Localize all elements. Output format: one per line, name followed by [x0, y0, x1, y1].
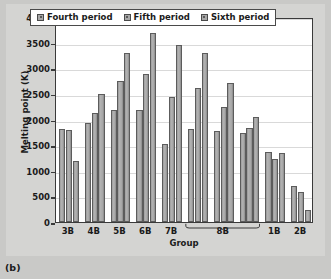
bar — [214, 131, 220, 222]
bar — [73, 161, 79, 222]
bar — [305, 210, 311, 222]
bar — [188, 129, 194, 222]
bar — [169, 97, 175, 222]
legend-swatch-icon — [124, 14, 131, 21]
x-axis-tick-label: 6B — [139, 226, 151, 236]
legend-entry: Fourth period — [37, 12, 113, 22]
y-axis-tick-mark — [51, 223, 55, 225]
bar — [221, 107, 227, 222]
gridline — [56, 70, 312, 71]
plot-inner — [56, 19, 312, 222]
x-axis-tick-label: 1B — [268, 226, 280, 236]
legend: Fourth periodFifth periodSixth period — [30, 9, 276, 26]
y-axis-tick-label: 2500 — [6, 90, 50, 100]
group-8b-brace-icon — [185, 223, 260, 230]
bar — [59, 129, 65, 222]
y-axis-tick-label: 1500 — [6, 141, 50, 151]
gridline — [56, 96, 312, 97]
bar — [246, 128, 252, 222]
bar — [227, 83, 233, 222]
bar — [291, 186, 297, 222]
legend-entry: Fifth period — [124, 12, 190, 22]
bar — [98, 94, 104, 222]
bar — [136, 110, 142, 222]
bar — [66, 130, 72, 222]
legend-swatch-icon — [37, 14, 44, 21]
bar — [240, 133, 246, 222]
figure-caption: (b) — [5, 262, 20, 273]
legend-label: Sixth period — [211, 12, 269, 22]
bar — [298, 192, 304, 222]
bar — [150, 33, 156, 222]
y-axis-tick-label: 3000 — [6, 64, 50, 74]
y-axis-tick-label: 1000 — [6, 167, 50, 177]
y-axis-tick-label: 0 — [6, 218, 50, 228]
bar — [272, 159, 278, 222]
x-axis-tick-label: 7B — [165, 226, 177, 236]
y-axis-tick-label: 2000 — [6, 116, 50, 126]
bar — [279, 153, 285, 222]
x-axis-tick-label: 4B — [87, 226, 99, 236]
bar — [117, 81, 123, 222]
bar — [111, 110, 117, 222]
legend-swatch-icon — [201, 14, 208, 21]
gridline — [56, 45, 312, 46]
plot-area — [55, 18, 313, 223]
legend-label: Fourth period — [47, 12, 113, 22]
x-axis-tick-label: 2B — [294, 226, 306, 236]
figure-container: Melting point (K) 0500100015002000250030… — [0, 0, 331, 279]
legend-label: Fifth period — [134, 12, 190, 22]
x-axis-tick-label: 5B — [113, 226, 125, 236]
x-axis-title: Group — [55, 238, 313, 248]
x-axis-tick-label: 3B — [62, 226, 74, 236]
bar — [143, 74, 149, 222]
bar — [85, 123, 91, 222]
bar — [265, 152, 271, 222]
chart-panel: Melting point (K) 0500100015002000250030… — [6, 4, 325, 256]
y-axis-tick-label: 3500 — [6, 39, 50, 49]
bar — [253, 117, 259, 222]
legend-entry: Sixth period — [201, 12, 269, 22]
bar — [195, 88, 201, 222]
bar — [92, 113, 98, 222]
bar — [202, 53, 208, 222]
bar — [176, 45, 182, 222]
bar — [124, 53, 130, 222]
bar — [162, 144, 168, 222]
y-axis-tick-label: 500 — [6, 192, 50, 202]
